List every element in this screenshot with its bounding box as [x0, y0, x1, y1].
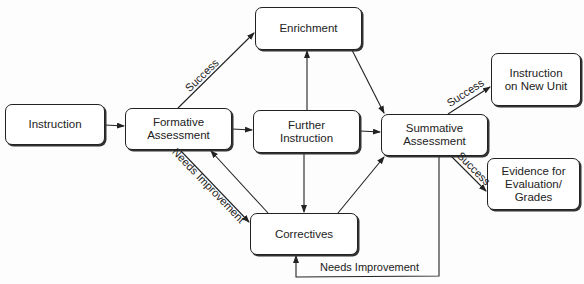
node-evidence-grades: Evidence for Evaluation/ Grades: [487, 158, 580, 210]
edge-formative-further: [232, 129, 252, 130]
node-evidence-grades-label: Evidence for Evaluation/ Grades: [496, 165, 571, 204]
node-enrichment-label: Enrichment: [279, 22, 337, 35]
node-instruction-new-unit-label: Instruction on New Unit: [502, 67, 570, 93]
edge-correctives-summative: [338, 157, 384, 213]
node-further-instruction-label: Further Instruction: [276, 119, 337, 145]
node-summative-assessment: Summative Assessment: [381, 114, 488, 156]
node-instruction: Instruction: [5, 104, 105, 145]
label-needs-improvement-summative: Needs Improvement: [320, 261, 419, 273]
edge-instruction-formative: [105, 125, 124, 126]
node-instruction-label: Instruction: [28, 118, 81, 131]
edge-enrichment-summative: [352, 50, 384, 113]
node-formative-assessment-label: Formative Assessment: [130, 116, 227, 142]
node-further-instruction: Further Instruction: [253, 110, 360, 153]
instruction-flow-diagram: Instruction Formative Assessment Enrichm…: [0, 0, 584, 284]
node-formative-assessment: Formative Assessment: [125, 108, 232, 150]
edge-formative-enrichment: [178, 33, 254, 108]
node-correctives: Correctives: [250, 213, 358, 255]
node-enrichment: Enrichment: [255, 7, 362, 50]
node-correctives-label: Correctives: [275, 228, 333, 241]
edge-further-summative: [360, 131, 380, 132]
node-summative-assessment-label: Summative Assessment: [386, 122, 483, 148]
node-instruction-new-unit: Instruction on New Unit: [491, 53, 581, 106]
